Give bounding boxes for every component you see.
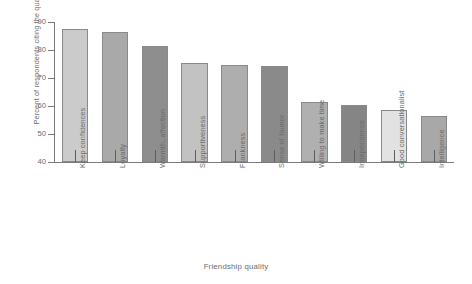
x-axis-category-label: Keep confidences [78, 108, 87, 168]
x-axis-tick [394, 150, 395, 162]
y-axis-tick-label: 40 [26, 158, 46, 166]
x-axis-tick [75, 150, 76, 162]
x-axis-category-label: Sense of humor [277, 114, 286, 168]
x-axis-line [54, 162, 454, 163]
x-axis-tick [354, 150, 355, 162]
x-axis-category-label: Willing to make time [317, 100, 326, 168]
plot-area [55, 22, 454, 162]
x-axis-tick [235, 150, 236, 162]
x-axis-tick [274, 150, 275, 162]
x-axis-category-label: Warmth, affection [158, 109, 167, 168]
x-axis-title: Friendship quality [0, 262, 472, 271]
bar-chart: Percent of respondents citing the qualit… [0, 0, 472, 284]
x-axis-category-label: Frankness [238, 133, 247, 168]
y-axis-tick [48, 50, 55, 51]
y-axis-tick [48, 78, 55, 79]
bar [102, 32, 128, 162]
x-axis-category-label: Supportiveness [198, 116, 207, 168]
y-axis-tick [48, 22, 55, 23]
y-axis-tick-label: 70 [26, 74, 46, 82]
y-axis-tick [48, 162, 55, 163]
x-axis-category-label: Independence [357, 120, 366, 168]
y-axis-tick-label: 90 [26, 18, 46, 26]
y-axis-tick-label: 80 [26, 46, 46, 54]
x-axis-tick [155, 150, 156, 162]
y-axis-tick-label: 60 [26, 102, 46, 110]
x-axis-category-label: Good conversationalist [397, 91, 406, 168]
x-axis-category-label: Loyalty [118, 144, 127, 168]
x-axis-category-label: Intelligence [437, 129, 446, 168]
x-axis-tick [115, 150, 116, 162]
x-axis-tick [434, 150, 435, 162]
y-axis-tick [48, 106, 55, 107]
x-axis-tick [195, 150, 196, 162]
x-axis-tick [314, 150, 315, 162]
y-axis-tick [48, 134, 55, 135]
y-axis-tick-label: 50 [26, 130, 46, 138]
